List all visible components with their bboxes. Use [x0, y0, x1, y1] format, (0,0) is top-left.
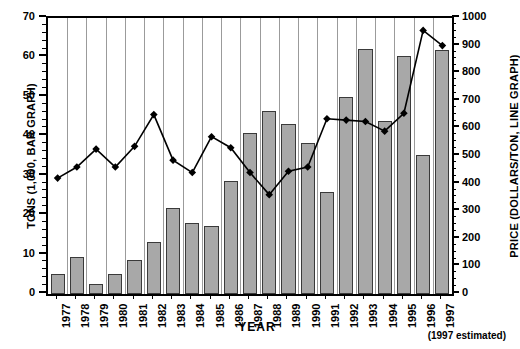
y2-tick-minor — [452, 106, 456, 107]
y-tick-minor — [42, 276, 46, 277]
bar-1996 — [416, 155, 430, 294]
y-tick-minor — [42, 166, 46, 167]
gridline — [125, 18, 126, 294]
y2-tick-minor — [452, 278, 456, 279]
y2-tick-minor — [452, 223, 456, 224]
y-tick-minor — [42, 284, 46, 285]
y2-tick-minor — [452, 175, 456, 176]
bar-1997 — [435, 50, 449, 294]
y2-tick-minor — [452, 251, 456, 252]
y2-tick-label: 800 — [462, 66, 496, 77]
y-tick-minor — [42, 150, 46, 151]
bar-1988 — [262, 111, 276, 294]
gridline — [414, 18, 415, 294]
gridline — [260, 18, 261, 294]
y2-tick — [452, 181, 459, 183]
y-tick-minor — [42, 197, 46, 198]
y2-tick-minor — [452, 51, 456, 52]
plot-area — [46, 16, 454, 296]
x-tick — [421, 294, 422, 299]
x-tick — [190, 294, 191, 299]
y2-tick-minor — [452, 216, 456, 217]
line-marker-1991 — [323, 115, 331, 123]
y2-tick — [452, 43, 459, 45]
x-tick — [56, 294, 57, 299]
bar-1980 — [108, 274, 122, 294]
gridline — [240, 18, 241, 294]
x-tick — [133, 294, 134, 299]
y-tick — [39, 291, 46, 293]
y-tick-minor — [42, 40, 46, 41]
y-tick-minor — [42, 268, 46, 269]
y2-tick-minor — [452, 30, 456, 31]
y2-tick-label: 100 — [462, 259, 496, 270]
y2-tick-label: 900 — [462, 39, 496, 50]
y-tick — [39, 212, 46, 214]
bar-1989 — [281, 124, 295, 294]
y2-tick-minor — [452, 37, 456, 38]
chart-footnote: (1997 estimated) — [428, 330, 506, 341]
line-marker-1981 — [131, 143, 139, 151]
y-tick-minor — [42, 32, 46, 33]
bar-1987 — [243, 133, 257, 294]
y-tick-minor — [42, 142, 46, 143]
y2-tick-minor — [452, 195, 456, 196]
bar-1977 — [51, 274, 65, 294]
x-tick — [210, 294, 211, 299]
y-axis-left-title: TONS (1,000, BAR GRAPH) — [25, 46, 37, 266]
y2-tick-minor — [452, 113, 456, 114]
y-tick-minor — [42, 79, 46, 80]
y2-tick — [452, 236, 459, 238]
y-tick — [39, 94, 46, 96]
y2-tick — [452, 263, 459, 265]
y2-tick — [452, 153, 459, 155]
bar-1986 — [224, 181, 238, 294]
x-tick — [402, 294, 403, 299]
y2-tick-minor — [452, 64, 456, 65]
line-marker-1996 — [419, 27, 427, 35]
y-tick-minor — [42, 245, 46, 246]
y-tick-minor — [42, 71, 46, 72]
bar-1984 — [185, 223, 199, 294]
y2-tick-label: 300 — [462, 204, 496, 215]
x-tick — [306, 294, 307, 299]
y-tick-minor — [42, 103, 46, 104]
line-marker-1977 — [54, 174, 62, 182]
y2-tick-minor — [452, 133, 456, 134]
y2-tick-minor — [452, 147, 456, 148]
bar-1995 — [397, 56, 411, 294]
y-tick — [39, 252, 46, 254]
x-tick — [229, 294, 230, 299]
x-tick — [171, 294, 172, 299]
y-tick-label: 40 — [9, 129, 35, 140]
bar-1981 — [127, 260, 141, 294]
y2-tick-minor — [452, 161, 456, 162]
y2-tick-label: 600 — [462, 121, 496, 132]
y2-tick-minor — [452, 168, 456, 169]
y2-tick-minor — [452, 57, 456, 58]
x-tick — [152, 294, 153, 299]
y-tick — [39, 173, 46, 175]
y2-tick-minor — [452, 285, 456, 286]
y-tick-label: 70 — [9, 11, 35, 22]
bar-1991 — [320, 192, 334, 295]
y2-tick-minor — [452, 85, 456, 86]
y-tick-label: 20 — [9, 208, 35, 219]
gridline — [106, 18, 107, 294]
y2-tick-minor — [452, 258, 456, 259]
y2-tick-minor — [452, 92, 456, 93]
line-marker-1997 — [439, 42, 447, 50]
y2-tick-label: 700 — [462, 94, 496, 105]
y2-tick — [452, 291, 459, 293]
y-tick-minor — [42, 63, 46, 64]
gridline — [221, 18, 222, 294]
y-tick-minor — [42, 126, 46, 127]
bar-1992 — [339, 97, 353, 294]
x-tick — [344, 294, 345, 299]
y2-tick-label: 400 — [462, 177, 496, 188]
x-tick — [440, 294, 441, 299]
gridline — [67, 18, 68, 294]
gridline — [163, 18, 164, 294]
y-tick-minor — [42, 260, 46, 261]
